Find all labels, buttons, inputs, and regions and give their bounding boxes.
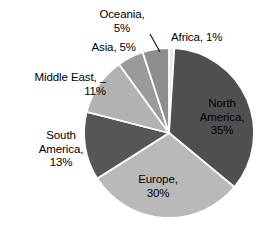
slice-label-north-america: North America, 35% [186,97,258,138]
pie-chart-figure: Oceania, 5% Africa, 1% Asia, 5% Middle E… [0,0,267,227]
slice-label-oceania: Oceania, 5% [86,8,158,35]
slice-label-europe: Europe, 30% [122,173,194,200]
slice-label-oceania-line2: 5% [86,22,158,36]
slice-label-africa-line1: Africa, 1% [171,31,251,45]
slice-label-south-america: South America, 13% [22,129,100,170]
slice-label-oceania-line1: Oceania, [86,8,158,22]
slice-label-asia-line1: Asia, 5% [58,41,136,55]
slice-label-middle-east: Middle East, _ 11% [2,71,106,98]
slice-label-europe-line2: 30% [122,187,194,201]
slice-label-asia: Asia, 5% [58,41,136,55]
slice-label-north-america-line2: America, [186,111,258,125]
slice-label-south-america-line3: 13% [22,156,100,170]
slice-label-north-america-line1: North [186,97,258,111]
slice-label-europe-line1: Europe, [122,173,194,187]
slice-label-africa: Africa, 1% [171,31,251,45]
slice-label-middle-east-line2: 11% [2,85,106,99]
slice-label-middle-east-line1: Middle East, _ [2,71,106,85]
slice-label-south-america-line1: South [22,129,100,143]
slice-label-south-america-line2: America, [22,143,100,157]
slice-label-north-america-line3: 35% [186,124,258,138]
